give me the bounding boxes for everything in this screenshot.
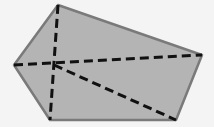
pentagon-diagram bbox=[0, 0, 214, 127]
